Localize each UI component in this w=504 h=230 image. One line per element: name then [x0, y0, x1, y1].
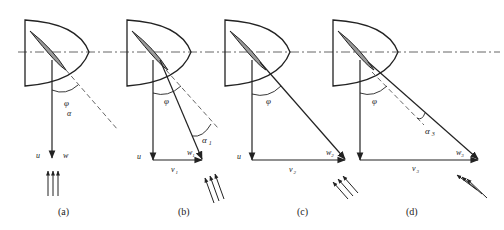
- w2-label: w2: [326, 148, 334, 158]
- alpha-angle-arc: [417, 113, 425, 119]
- panel-b: φ α1 u w1 v1 (b): [127, 20, 224, 218]
- panel-caption-b: (b): [178, 206, 190, 218]
- flow-direction-arrows-icon: [48, 171, 58, 196]
- hub-outline: [333, 20, 398, 86]
- hub-outline: [127, 20, 191, 86]
- panel-caption-c: (c): [297, 206, 308, 218]
- phi-label: φ: [266, 96, 271, 106]
- phi-label: φ: [64, 98, 69, 108]
- blade-direction-dashed: [66, 70, 118, 130]
- flow-direction-arrows-icon: [333, 176, 358, 199]
- phi-angle-arc: [153, 86, 181, 94]
- hub-outline: [25, 20, 89, 86]
- panel-caption-d: (d): [406, 206, 418, 218]
- blade-profile: [338, 31, 374, 70]
- velocity-triangle-diagram: φ α u w (a) φ α1 u w1 v1 (b): [0, 0, 504, 230]
- w-label: w: [63, 151, 69, 160]
- u-label: u: [36, 151, 40, 160]
- w1-label: w1: [187, 148, 195, 158]
- u-label: u: [137, 152, 141, 161]
- alpha1-label: α1: [202, 135, 212, 146]
- alpha3-label: α3: [425, 126, 435, 137]
- blade-profile: [230, 31, 266, 70]
- phi-angle-arc: [360, 86, 387, 94]
- blade-direction-dashed: [372, 72, 424, 125]
- flow-direction-arrows-icon: [457, 175, 487, 198]
- w3-vector: [368, 62, 478, 159]
- panel-c: φ u w2 v2 (c): [225, 20, 358, 218]
- panel-a: φ α u w (a): [25, 20, 118, 218]
- w3-label: w3: [456, 148, 464, 158]
- flow-direction-arrows-icon: [205, 174, 224, 203]
- blade-profile: [132, 31, 168, 70]
- panel-d: φ α3 w3 v3 (d): [333, 20, 487, 218]
- u-label: u: [237, 152, 241, 161]
- panel-caption-a: (a): [58, 206, 69, 218]
- w2-vector: [260, 62, 345, 159]
- blade-profile: [30, 31, 66, 70]
- phi-label: φ: [372, 96, 377, 106]
- v2-label: v2: [289, 165, 297, 175]
- phi-label: φ: [164, 96, 169, 106]
- w1-vector: [160, 60, 202, 159]
- v1-label: v1: [171, 165, 178, 175]
- phi-subscript-alpha: α: [67, 109, 72, 118]
- hub-outline: [225, 20, 290, 86]
- angle-arc: [52, 85, 78, 92]
- blade-direction-dashed: [166, 70, 218, 128]
- v3-label: v3: [412, 164, 420, 174]
- phi-angle-arc: [252, 86, 281, 95]
